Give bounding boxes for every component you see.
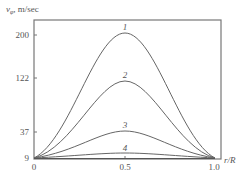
curve-label-3: 3 bbox=[122, 120, 128, 130]
x-axis-label: r/R bbox=[224, 155, 236, 165]
y-axis-label: vφ, m/sec bbox=[6, 4, 39, 15]
x-tick-0-5: 0.5 bbox=[119, 162, 131, 172]
curve-1 bbox=[34, 33, 215, 158]
y-tick-122: 122 bbox=[16, 73, 30, 83]
curve-label-4: 4 bbox=[123, 143, 128, 153]
chart-svg: 200 122 37 9 0 0.5 1.0 vφ, m/sec r/R 1 2… bbox=[0, 0, 245, 178]
curve-label-1: 1 bbox=[123, 22, 128, 32]
curves bbox=[34, 33, 215, 159]
x-tick-1-0: 1.0 bbox=[208, 162, 220, 172]
y-ticks bbox=[34, 35, 125, 159]
curve-label-2: 2 bbox=[123, 70, 128, 80]
y-tick-37: 37 bbox=[20, 127, 30, 137]
y-tick-9: 9 bbox=[25, 153, 30, 163]
plot-frame bbox=[34, 20, 221, 159]
y-tick-200: 200 bbox=[16, 30, 30, 40]
x-tick-0: 0 bbox=[32, 162, 37, 172]
